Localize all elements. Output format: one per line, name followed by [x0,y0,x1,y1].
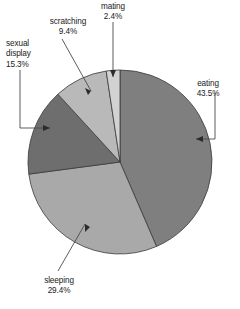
pie-label-sexual-display-value: 15.3% [6,60,66,70]
pie-label-eating-value: 43.5% [182,89,234,99]
pie-chart: eating 43.5% sleeping 29.4% sexual displ… [0,0,240,309]
pie-label-eating: eating 43.5% [182,79,234,100]
pie-label-mating: mating 2.4% [90,2,136,23]
pie-label-mating-name: mating [90,2,136,12]
pie-label-eating-name: eating [182,79,234,89]
leader-mating [110,22,116,77]
pie-label-scratching-value: 9.4% [37,27,99,37]
pie-label-sexual-display-name-line2: display [6,49,66,59]
pie-label-sleeping: sleeping 29.4% [28,276,90,297]
pie-label-mating-value: 2.4% [90,12,136,22]
pie-label-sexual-display: sexual display 15.3% [6,39,66,70]
pie-label-sleeping-name: sleeping [28,276,90,286]
pie-label-sexual-display-name-line1: sexual [6,39,66,49]
pie-label-sleeping-value: 29.4% [28,286,90,296]
